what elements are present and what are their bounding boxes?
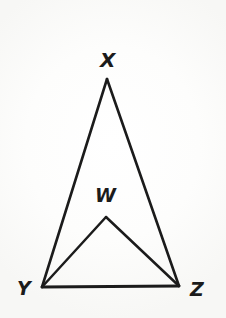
segment-yz (42, 286, 179, 287)
segment-xy (42, 79, 107, 287)
vertex-label-x: X (100, 50, 115, 70)
geometry-figure: X W Y Z (0, 0, 226, 318)
segment-xz (107, 79, 179, 286)
vertex-label-y: Y (17, 279, 31, 298)
vertex-label-z: Z (190, 280, 204, 299)
vertex-label-w: W (95, 186, 116, 205)
